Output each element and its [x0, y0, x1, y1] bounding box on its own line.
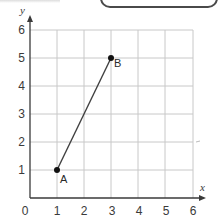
coordinate-grid-chart: x y 0 1 2 3 4 5 6 1 2 3 4 5 6 A B — [0, 0, 221, 220]
x-tick-labels: 0 1 2 3 4 5 6 — [22, 204, 197, 218]
x-tick-3: 3 — [109, 204, 116, 218]
x-tick-1: 1 — [54, 204, 61, 218]
x-tick-4: 4 — [136, 204, 143, 218]
x-axis-arrow-icon — [199, 195, 206, 201]
y-tick-3: 3 — [18, 107, 25, 121]
x-tick-0: 0 — [22, 204, 29, 218]
y-axis — [27, 15, 33, 198]
point-a-label: A — [60, 173, 68, 185]
point-b-label: B — [114, 57, 121, 69]
y-tick-5: 5 — [18, 51, 25, 65]
x-tick-5: 5 — [163, 204, 170, 218]
y-axis-label: y — [19, 4, 25, 16]
y-tick-2: 2 — [18, 135, 25, 149]
x-axis-label: x — [199, 181, 205, 193]
y-tick-1: 1 — [18, 163, 25, 177]
x-axis — [30, 195, 206, 201]
y-tick-4: 4 — [18, 79, 25, 93]
x-tick-2: 2 — [81, 204, 88, 218]
x-tick-6: 6 — [190, 204, 197, 218]
y-axis-arrow-icon — [27, 15, 33, 22]
y-tick-labels: 1 2 3 4 5 6 — [18, 23, 25, 177]
stray-mark — [196, 141, 200, 142]
y-tick-6: 6 — [18, 23, 25, 37]
